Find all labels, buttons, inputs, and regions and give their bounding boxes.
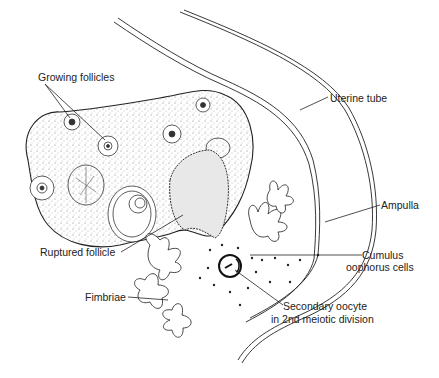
label-ruptured-follicle: Ruptured follicle [40, 246, 115, 258]
label-ampulla: Ampulla [381, 199, 419, 211]
label-fimbriae: Fimbriae [85, 291, 126, 303]
label-oocyte-line1: Secondary oocyte [283, 300, 367, 312]
label-oocyte-line2: in 2nd meiotic division [271, 313, 374, 325]
secondary-oocyte [219, 255, 241, 277]
cumulus-cells [199, 244, 319, 306]
label-uterine-tube: Uterine tube [330, 92, 387, 104]
label-cumulus-line1: Cumulus [362, 249, 403, 261]
label-cumulus-line2: oophorus cells [346, 261, 414, 273]
label-growing-follicles: Growing follicles [38, 71, 114, 83]
ovulation-diagram: Growing follicles Uterine tube Ampulla C… [0, 0, 439, 378]
